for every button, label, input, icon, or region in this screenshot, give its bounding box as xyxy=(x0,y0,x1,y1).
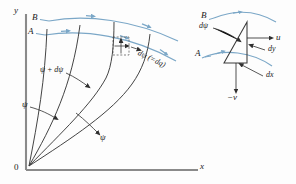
psi-lower-left-label: ψ xyxy=(22,100,28,109)
right-blue-arcs xyxy=(202,12,276,66)
arc-B-flow-arrow-1 xyxy=(86,16,94,17)
arc-B-flow-arrow-2 xyxy=(142,24,150,27)
dx-label: dx xyxy=(266,71,274,79)
dpsi-detail-leader xyxy=(213,28,240,41)
psi-plus-dpsi-label: ψ + dψ xyxy=(40,66,63,74)
arc-A-flow-arrow-1 xyxy=(61,31,69,32)
control-volume-triangle xyxy=(213,22,272,92)
streamline-1 xyxy=(29,29,47,166)
streamline-2 xyxy=(29,25,80,166)
arc-A-leader xyxy=(36,34,45,36)
psi-right-leader xyxy=(76,113,99,134)
psi-left-leader xyxy=(30,107,57,119)
dy-leader xyxy=(250,45,265,50)
minus-v-velocity-label: −v xyxy=(227,93,237,102)
figure-canvas xyxy=(0,0,296,184)
arc-B-detail-label: B xyxy=(201,11,207,20)
triangle-outline xyxy=(224,22,247,63)
arc-B-label: B xyxy=(32,13,38,22)
streamline-4 xyxy=(29,34,150,166)
arc-A-label: A xyxy=(28,27,34,36)
origin-label: 0 xyxy=(14,163,19,172)
psi-lower-right-label: ψ xyxy=(100,133,106,142)
dpsi-detail-label: dψ xyxy=(199,22,208,30)
arc-A-detail-label: A xyxy=(195,49,201,58)
arc-B-leader xyxy=(40,20,49,22)
left-streamlines xyxy=(29,22,150,166)
dx-leader xyxy=(240,64,263,76)
arc-B-detail-leader xyxy=(209,18,214,20)
dy-label: dy xyxy=(268,45,276,53)
u-velocity-label: u xyxy=(276,33,281,42)
y-axis-label: y xyxy=(14,6,18,15)
x-axis-label: x xyxy=(200,162,204,171)
arc-B-detail-path xyxy=(214,12,276,22)
arc-A-detail-path xyxy=(202,52,272,66)
psi-plus-dpsi-leader xyxy=(66,73,89,87)
left-blue-arcs xyxy=(36,16,178,61)
detail-dashed-box-group xyxy=(113,37,140,55)
stream-function-figure: y x 0 B A ψ ψ + dψ ψ dψ (=dq) B A dψ u d… xyxy=(0,0,296,184)
